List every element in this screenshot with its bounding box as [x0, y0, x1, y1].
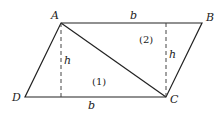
- vertex-label-b: B: [205, 11, 214, 24]
- height-label-right: h: [169, 48, 176, 61]
- side-label-top: b: [130, 9, 137, 22]
- region-label-2: (2): [139, 34, 153, 45]
- parallelogram-diagram: A B C D b b h h (1) (2): [0, 0, 222, 116]
- vertex-label-d: D: [11, 91, 21, 104]
- height-label-left: h: [64, 54, 71, 67]
- vertex-label-c: C: [170, 93, 179, 106]
- vertex-label-a: A: [50, 9, 59, 22]
- region-label-1: (1): [92, 76, 106, 87]
- side-label-bottom: b: [88, 99, 95, 112]
